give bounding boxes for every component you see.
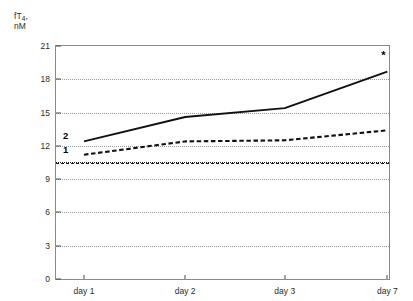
x-tick-label: day 2	[175, 286, 196, 296]
series-label-1: 1	[63, 143, 68, 154]
x-tick-label: day 7	[377, 286, 398, 296]
y-tick-label: 21	[41, 41, 56, 51]
y-axis-label-subscript: 4	[22, 15, 26, 22]
series-lines	[56, 46, 389, 279]
series-line-1	[84, 130, 387, 154]
x-tick-label: day 1	[74, 286, 95, 296]
y-tick-label: 6	[45, 207, 56, 217]
series-label-2: 2	[63, 130, 68, 141]
y-tick-label: 18	[41, 74, 56, 84]
y-tick-label: 3	[45, 241, 56, 251]
y-tick-label: 12	[41, 141, 56, 151]
y-tick-label: 15	[41, 108, 56, 118]
significance-asterisk: *	[381, 49, 385, 60]
y-axis-label: fT4, nM	[14, 12, 28, 31]
y-axis-label-units: nM	[14, 21, 26, 31]
series-line-2	[84, 72, 387, 142]
y-tick-label: 0	[45, 274, 56, 284]
y-tick-label: 9	[45, 174, 56, 184]
y-axis-label-prefix: fT	[14, 11, 22, 21]
x-tick-label: day 3	[274, 286, 295, 296]
y-axis-label-comma: ,	[25, 11, 27, 21]
chart-figure: fT4, nM 036912151821 day 1day 2day 3day …	[0, 0, 413, 301]
plot-area: 036912151821 day 1day 2day 3day 7 12 *	[55, 45, 390, 280]
